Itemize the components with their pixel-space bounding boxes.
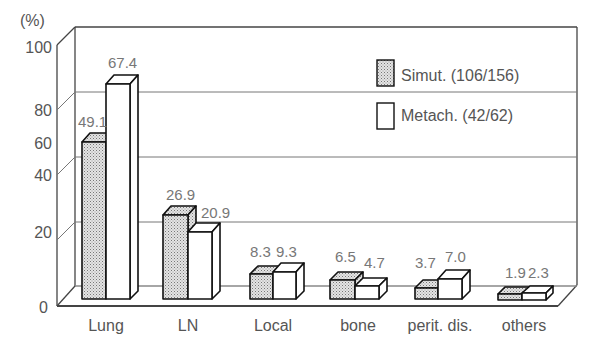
y-tick-40: 40 bbox=[34, 167, 52, 184]
category-lung: Lung bbox=[88, 317, 124, 334]
category-perit-dis: perit. dis. bbox=[408, 317, 473, 334]
y-axis: (%) 100 80 60 40 20 0 bbox=[20, 12, 52, 316]
value-bone-simut: 6.5 bbox=[335, 248, 356, 265]
value-local-metach: 9.3 bbox=[276, 243, 297, 260]
category-bone: bone bbox=[340, 317, 376, 334]
y-axis-unit: (%) bbox=[20, 12, 45, 29]
value-perit-metach: 7.0 bbox=[445, 248, 466, 265]
value-ln-simut: 26.9 bbox=[166, 186, 195, 203]
y-tick-80: 80 bbox=[34, 102, 52, 119]
bar-lung-metach bbox=[106, 75, 138, 299]
bar-ln-metach bbox=[188, 223, 220, 299]
legend: Simut. (106/156) Metach. (42/62) bbox=[377, 60, 519, 129]
value-local-simut: 8.3 bbox=[250, 243, 271, 260]
legend-swatch-metach bbox=[377, 103, 394, 129]
category-others: others bbox=[502, 317, 546, 334]
value-lung-metach: 67.4 bbox=[108, 54, 137, 71]
value-bone-metach: 4.7 bbox=[364, 254, 385, 271]
y-tick-20: 20 bbox=[34, 224, 52, 241]
x-axis: Lung LN Local bone perit. dis. others bbox=[88, 317, 546, 334]
value-others-metach: 2.3 bbox=[528, 264, 549, 281]
value-lung-simut: 49.1 bbox=[78, 113, 107, 130]
category-ln: LN bbox=[178, 317, 198, 334]
legend-label-metach: Metach. (42/62) bbox=[401, 107, 513, 124]
bar-local-metach bbox=[273, 263, 304, 299]
y-tick-60: 60 bbox=[34, 135, 52, 152]
y-tick-0: 0 bbox=[39, 299, 48, 316]
category-local: Local bbox=[254, 317, 292, 334]
value-labels: 49.1 67.4 26.9 20.9 8.3 9.3 6.5 4.7 3.7 … bbox=[78, 54, 549, 281]
bar-chart: (%) 100 80 60 40 20 0 bbox=[0, 0, 592, 349]
y-tick-100: 100 bbox=[25, 39, 52, 56]
value-perit-simut: 3.7 bbox=[415, 254, 436, 271]
bar-bone-metach bbox=[355, 278, 387, 299]
value-others-simut: 1.9 bbox=[505, 264, 526, 281]
legend-swatch-simut bbox=[377, 60, 394, 86]
bar-others-metach bbox=[522, 286, 553, 300]
bar-perit-metach bbox=[438, 270, 470, 299]
value-ln-metach: 20.9 bbox=[201, 204, 230, 221]
legend-label-simut: Simut. (106/156) bbox=[401, 67, 519, 84]
